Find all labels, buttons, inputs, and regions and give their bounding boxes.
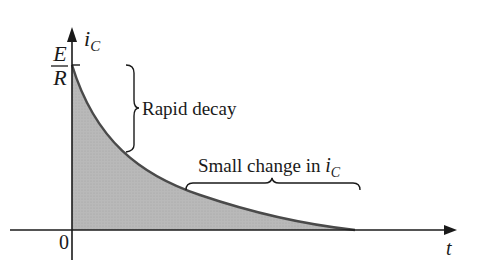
x-axis-arrow-icon	[444, 225, 457, 235]
y-axis-arrow-icon	[67, 27, 77, 42]
rapid-decay-label: Rapid decay	[142, 98, 237, 119]
origin-label: 0	[59, 231, 69, 253]
capacitor-current-decay-diagram: iC E R 0 t Rapid decay Small change in i…	[0, 0, 477, 275]
x-axis-label: t	[446, 237, 452, 259]
initial-value-label: E R	[51, 41, 68, 90]
area-under-curve	[72, 65, 355, 230]
rapid-decay-brace	[126, 65, 139, 152]
initial-value-denominator: R	[52, 65, 67, 90]
y-axis-label: iC	[84, 26, 101, 54]
initial-value-numerator: E	[52, 41, 67, 66]
small-change-label: Small change in iC	[198, 154, 341, 180]
